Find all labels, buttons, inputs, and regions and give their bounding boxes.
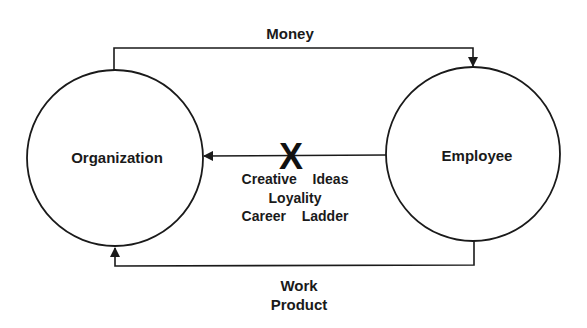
work-product-label: Work Product [271, 276, 328, 314]
work-label: Work [271, 276, 328, 295]
creative-ideas-label: Creative Ideas [242, 170, 349, 189]
money-arrow [114, 48, 473, 70]
loyality-label: Loyality [242, 189, 349, 208]
product-label: Product [271, 295, 328, 314]
organization-label: Organization [71, 150, 163, 165]
employee-label: Employee [442, 148, 513, 163]
career-ladder-label: Career Ladder [242, 207, 349, 226]
work-product-arrow [115, 241, 474, 266]
money-label: Money [266, 26, 314, 41]
blocked-flow-labels: Creative Ideas Loyality Career Ladder [242, 170, 349, 226]
